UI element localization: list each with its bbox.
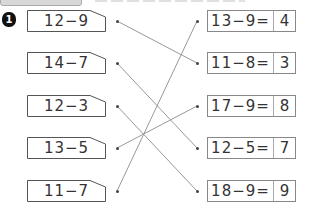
left-expression-card[interactable]: 14−7 — [27, 52, 106, 74]
line-12-9 — [117, 21, 197, 63]
left-connector-dot[interactable] — [116, 62, 119, 65]
equation-expression: 18−9= — [208, 181, 274, 201]
line-12-3 — [117, 106, 197, 191]
right-equation-card[interactable]: 12−5= 7 — [207, 137, 296, 159]
left-connector-dot[interactable] — [116, 147, 119, 150]
equation-expression: 12−5= — [208, 138, 274, 158]
right-equation-card[interactable]: 18−9= 9 — [207, 180, 296, 202]
right-connector-dot[interactable] — [196, 105, 199, 108]
right-equation-card[interactable]: 17−9= 8 — [207, 95, 296, 117]
equation-answer: 9 — [274, 181, 295, 201]
left-expression-card[interactable]: 12−3 — [27, 95, 106, 117]
left-expression-card[interactable]: 12−9 — [27, 10, 106, 32]
expression-label: 12−9 — [27, 10, 106, 32]
expression-label: 13−5 — [27, 137, 106, 159]
equation-answer: 7 — [274, 138, 295, 158]
left-connector-dot[interactable] — [116, 20, 119, 23]
line-13-5 — [117, 106, 197, 148]
left-connector-dot[interactable] — [116, 190, 119, 193]
equation-answer: 3 — [274, 53, 295, 73]
right-connector-dot[interactable] — [196, 147, 199, 150]
right-connector-dot[interactable] — [196, 190, 199, 193]
left-connector-dot[interactable] — [116, 105, 119, 108]
equation-expression: 11−8= — [208, 53, 274, 73]
right-equation-card[interactable]: 11−8= 3 — [207, 52, 296, 74]
equation-expression: 17−9= — [208, 96, 274, 116]
equation-answer: 4 — [274, 11, 295, 31]
line-11-7 — [117, 21, 197, 191]
left-expression-card[interactable]: 11−7 — [27, 180, 106, 202]
right-connector-dot[interactable] — [196, 62, 199, 65]
expression-label: 12−3 — [27, 95, 106, 117]
left-expression-card[interactable]: 13−5 — [27, 137, 106, 159]
expression-label: 14−7 — [27, 52, 106, 74]
expression-label: 11−7 — [27, 180, 106, 202]
right-connector-dot[interactable] — [196, 20, 199, 23]
equation-answer: 8 — [274, 96, 295, 116]
equation-expression: 13−9= — [208, 11, 274, 31]
right-equation-card[interactable]: 13−9= 4 — [207, 10, 296, 32]
